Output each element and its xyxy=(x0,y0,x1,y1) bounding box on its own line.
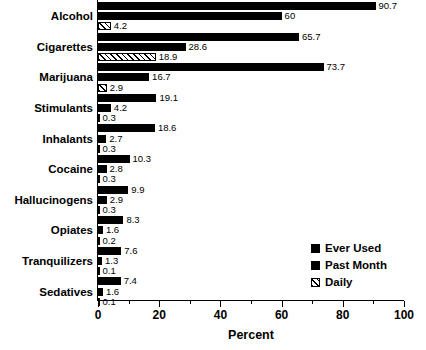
category-label: Hallucinogens xyxy=(0,194,93,206)
chart-legend: Ever UsedPast MonthDaily xyxy=(311,240,387,291)
bar-row: 2.7 xyxy=(98,135,404,143)
bar-value-label: 7.6 xyxy=(124,245,137,256)
bar xyxy=(98,135,106,143)
bar xyxy=(98,33,299,41)
bar xyxy=(98,216,123,224)
bar-value-label: 60 xyxy=(285,10,296,21)
bar-value-label: 4.2 xyxy=(114,20,127,31)
bar-value-label: 18.9 xyxy=(159,51,178,62)
category-label: Inhalants xyxy=(0,133,93,145)
bar-value-label: 0.2 xyxy=(103,235,116,246)
bar-row: 8.3 xyxy=(98,216,404,224)
bar-row: 10.3 xyxy=(98,155,404,163)
bar-group: 19.14.20.3 xyxy=(98,94,404,122)
bar-group: 10.32.80.3 xyxy=(98,155,404,183)
bar-row: 16.7 xyxy=(98,73,404,81)
bar xyxy=(98,2,376,10)
x-axis-minor-tick xyxy=(312,301,313,304)
bar xyxy=(98,94,156,102)
bar-row: 9.9 xyxy=(98,186,404,194)
x-axis-major-tick xyxy=(282,301,283,307)
x-axis-tick-label: 40 xyxy=(200,308,240,322)
bar-group: 73.716.72.9 xyxy=(98,63,404,91)
bar-value-label: 0.3 xyxy=(103,143,116,154)
bar-row: 2.9 xyxy=(98,84,404,92)
x-axis-minor-tick xyxy=(129,301,130,304)
legend-item: Ever Used xyxy=(311,240,387,256)
bar-row: 0.3 xyxy=(98,206,404,214)
bar xyxy=(98,206,100,214)
bar-row: 0.3 xyxy=(98,175,404,183)
bar-row: 18.9 xyxy=(98,53,404,61)
bar-row: 65.7 xyxy=(98,33,404,41)
x-axis-tick-label: 80 xyxy=(323,308,363,322)
bar-row: 0.3 xyxy=(98,114,404,122)
bar-row: 4.2 xyxy=(98,22,404,30)
bar-row: 4.2 xyxy=(98,104,404,112)
bar xyxy=(98,175,100,183)
legend-label: Past Month xyxy=(325,259,387,271)
bar-value-label: 0.1 xyxy=(103,296,116,307)
x-axis-tick-label: 60 xyxy=(262,308,302,322)
legend-label: Ever Used xyxy=(325,242,381,254)
bar xyxy=(98,53,156,61)
legend-label: Daily xyxy=(325,276,353,288)
bar-group: 65.728.618.9 xyxy=(98,33,404,61)
bar-value-label: 0.3 xyxy=(103,204,116,215)
bar-group: 90.7604.2 xyxy=(98,2,404,30)
category-label: Sedatives xyxy=(0,286,93,298)
bar-value-label: 9.9 xyxy=(131,184,144,195)
bar-row: 60 xyxy=(98,12,404,20)
bar-row: 90.7 xyxy=(98,2,404,10)
bar-group: 9.92.90.3 xyxy=(98,186,404,214)
bar-row: 2.9 xyxy=(98,196,404,204)
bar-row: 1.6 xyxy=(98,226,404,234)
bar-row: 19.1 xyxy=(98,94,404,102)
bar xyxy=(98,84,107,92)
category-label: Cigarettes xyxy=(0,41,93,53)
bar-value-label: 19.1 xyxy=(159,92,178,103)
bar-row: 28.6 xyxy=(98,43,404,51)
bar xyxy=(98,12,282,20)
x-axis-tick-label: 100 xyxy=(384,308,424,322)
legend-item: Past Month xyxy=(311,257,387,273)
bar xyxy=(98,165,107,173)
x-axis-minor-tick xyxy=(373,301,374,304)
x-axis-major-tick xyxy=(159,301,160,307)
bar-value-label: 10.3 xyxy=(133,153,152,164)
bar-value-label: 65.7 xyxy=(302,31,321,42)
bar xyxy=(98,114,100,122)
bar-chart: AlcoholCigarettesMarijuanaStimulantsInha… xyxy=(0,0,426,350)
bar-value-label: 28.6 xyxy=(189,41,208,52)
bar-value-label: 2.9 xyxy=(110,82,123,93)
bar xyxy=(98,267,100,275)
x-axis-tick-label: 20 xyxy=(139,308,179,322)
category-label: Alcohol xyxy=(0,10,93,22)
bar xyxy=(98,288,103,296)
legend-swatch-hatch-icon xyxy=(311,278,320,287)
bar-value-label: 0.3 xyxy=(103,173,116,184)
bar-group: 18.62.70.3 xyxy=(98,124,404,152)
category-label: Cocaine xyxy=(0,163,93,175)
bar-value-label: 90.7 xyxy=(379,0,398,11)
x-axis-major-tick xyxy=(343,301,344,307)
bar xyxy=(98,226,103,234)
bar-value-label: 18.6 xyxy=(158,122,177,133)
bar xyxy=(98,277,121,285)
legend-swatch-solid-icon xyxy=(311,261,320,270)
bar xyxy=(98,124,155,132)
bar xyxy=(98,186,128,194)
bar xyxy=(98,196,107,204)
x-axis-title: Percent xyxy=(98,328,404,342)
legend-swatch-solid-icon xyxy=(311,244,320,253)
category-label: Marijuana xyxy=(0,71,93,83)
bar xyxy=(98,73,149,81)
bar-row: 0.3 xyxy=(98,145,404,153)
bar-row: 2.8 xyxy=(98,165,404,173)
category-axis-labels: AlcoholCigarettesMarijuanaStimulantsInha… xyxy=(0,0,93,300)
bar-value-label: 16.7 xyxy=(152,71,171,82)
y-axis-line xyxy=(97,0,98,301)
bar-value-label: 4.2 xyxy=(114,102,127,113)
bar xyxy=(98,43,186,51)
x-axis-major-tick xyxy=(98,301,99,307)
